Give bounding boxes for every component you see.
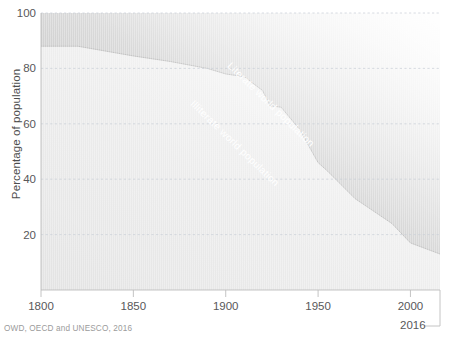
x-axis-end-label: 2016 bbox=[400, 319, 426, 331]
stacked-area-bands bbox=[41, 13, 440, 290]
x-tick-label-1850: 1850 bbox=[121, 300, 147, 312]
y-tick-label-80: 80 bbox=[6, 62, 36, 74]
x-tick-label-2000: 2000 bbox=[398, 300, 424, 312]
x-tick-marks bbox=[41, 290, 410, 297]
x-tick-label-1900: 1900 bbox=[213, 300, 239, 312]
topright-fade-overlay bbox=[41, 13, 440, 290]
y-tick-labels: 10080604020 bbox=[0, 0, 36, 341]
y-tick-label-100: 100 bbox=[6, 7, 36, 19]
y-tick-label-40: 40 bbox=[6, 173, 36, 185]
y-tick-label-60: 60 bbox=[6, 118, 36, 130]
end-year-bracket bbox=[424, 290, 440, 326]
source-credit: OWD, OECD and UNESCO, 2016 bbox=[4, 324, 132, 333]
chart-plot-area bbox=[0, 0, 452, 341]
x-tick-label-1800: 1800 bbox=[28, 300, 54, 312]
x-tick-label-1950: 1950 bbox=[305, 300, 331, 312]
y-tick-label-20: 20 bbox=[6, 229, 36, 241]
literacy-area-chart: Percentage of population 10080604020 180… bbox=[0, 0, 452, 341]
